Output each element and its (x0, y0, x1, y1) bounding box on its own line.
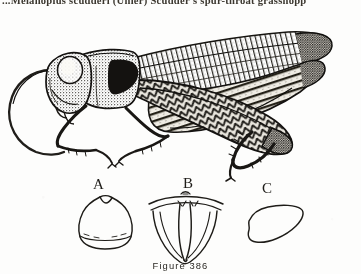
panel-a-letter: A (93, 177, 104, 192)
running-head-text: ...Melanoplus scudderi (Uhler) Scudder's… (0, 0, 361, 7)
figure-page: ...Melanoplus scudderi (Uhler) Scudder's… (0, 0, 361, 274)
figure-plate: A B C Figure 386 (0, 8, 361, 274)
panel-c-cercus (248, 205, 303, 242)
running-head: ...Melanoplus scudderi (Uhler) Scudder's… (0, 0, 361, 7)
panel-b-subgenital-ventral (149, 192, 223, 264)
panel-b-letter: B (183, 176, 193, 191)
detail-panels (0, 8, 361, 274)
figure-caption: Figure 386 (0, 260, 361, 271)
panel-a-pronotum-dorsal (79, 196, 132, 250)
panel-c-letter: C (262, 181, 272, 196)
